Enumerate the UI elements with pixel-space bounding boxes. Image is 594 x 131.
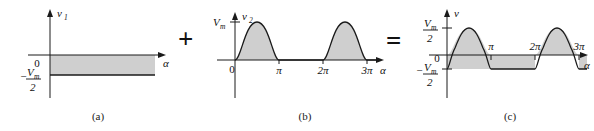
panel-b-chart: v 2 V m 0 π 2π 3π α bbox=[205, 0, 395, 110]
panel-b-x-axis-label: α bbox=[380, 64, 386, 76]
equals-operator: = bbox=[386, 28, 401, 55]
caption-panel-c: (c) bbox=[490, 110, 530, 122]
panel-c-y-tick-pos-numerator-sub: m bbox=[431, 23, 437, 32]
panel-b-y-axis-label: v bbox=[242, 10, 247, 22]
plus-operator: + bbox=[178, 26, 193, 53]
panel-a-y-tick-numerator-sub: m bbox=[34, 72, 40, 81]
panel-a-shaded-region bbox=[50, 55, 155, 75]
panel-b-y-tick-numerator-sub: m bbox=[220, 22, 226, 31]
panel-c-y-tick-neg-vm-2: − V m 2 bbox=[416, 61, 438, 88]
panel-a-y-tick-neg-vm-2: − V m 2 bbox=[20, 66, 41, 93]
panel-b-shaded-hump-1 bbox=[235, 22, 279, 60]
panel-a-origin-label: 0 bbox=[34, 57, 40, 69]
panel-a-x-axis-label: α bbox=[163, 57, 169, 69]
panel-c-y-axis-arrow bbox=[444, 9, 450, 17]
panel-c-x-tick-label-3pi: 3π bbox=[572, 40, 585, 52]
panel-c-y-tick-neg-numerator-sub: m bbox=[431, 67, 437, 76]
panel-a-y-axis-arrow bbox=[47, 9, 53, 17]
panel-c-y-tick-vm-2: V m 2 bbox=[423, 17, 438, 44]
panel-b-x-axis-arrow bbox=[376, 57, 384, 63]
panel-c-y-axis-label: v bbox=[454, 7, 459, 19]
panel-b-y-tick-vm: V m bbox=[213, 16, 226, 31]
panel-a-y-tick-denominator: 2 bbox=[30, 81, 36, 93]
panel-b-y-axis-arrow bbox=[232, 12, 238, 20]
panel-c-x-tick-label-2pi: 2π bbox=[529, 40, 541, 52]
panel-c-y-tick-neg-denominator: 2 bbox=[427, 76, 433, 88]
panel-c-shaded-trough-1 bbox=[491, 55, 535, 69]
panel-b-x-tick-label-2pi: 2π bbox=[317, 64, 329, 76]
panel-a-y-axis-subscript: 1 bbox=[64, 13, 68, 22]
panel-c-x-axis-label: α bbox=[584, 59, 590, 71]
panel-a-y-axis-label: v bbox=[57, 7, 62, 19]
panel-c-shaded-trough-0 bbox=[447, 55, 491, 69]
panel-c-y-tick-pos-denominator: 2 bbox=[427, 32, 433, 44]
panel-b-origin-label: 0 bbox=[229, 63, 235, 75]
panel-a-chart: v 1 α 0 − V m 2 bbox=[0, 0, 180, 110]
caption-panel-b: (b) bbox=[285, 110, 325, 122]
panel-b-x-tick-label-3pi: 3π bbox=[360, 64, 373, 76]
waveform-decomposition-figure: v 1 α 0 − V m 2 + v 2 bbox=[0, 0, 594, 131]
panel-c-y-tick-neg-sign: − bbox=[416, 64, 423, 76]
panel-b-y-axis-subscript: 2 bbox=[249, 16, 253, 25]
panel-c-origin-label: 0 bbox=[434, 52, 440, 64]
panel-b-x-tick-label-pi: π bbox=[276, 64, 282, 76]
caption-panel-a: (a) bbox=[78, 110, 118, 122]
panel-c-chart: v V m 2 0 − V m 2 π 2π 3π α bbox=[409, 0, 594, 110]
panel-b-shaded-hump-2 bbox=[323, 22, 367, 60]
panel-c-x-tick-label-pi: π bbox=[488, 40, 494, 52]
